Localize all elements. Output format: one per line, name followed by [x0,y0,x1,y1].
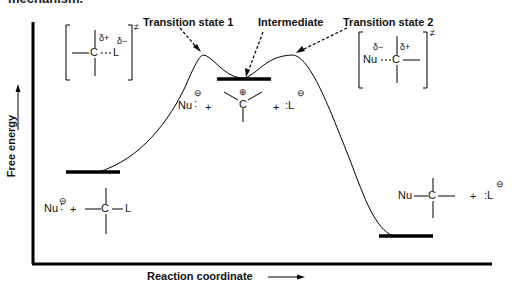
carbocation-charge: ⊕ [239,87,247,97]
reactant-leaving-group: L [125,202,131,214]
nu-lone-pair: : [194,97,197,109]
ts1-leaving-group: L [113,46,119,58]
ts2-carbon: C [392,53,400,65]
ts1-label: Transition state 1 [143,16,233,28]
ts2-nucleophile: Nu [363,53,377,65]
intermediate-label: Intermediate [258,16,323,28]
plus-sign: + [70,203,76,215]
ts2-pointer [302,28,347,50]
leaving-group-charge: ⊖ [297,88,305,98]
ts1-delta-minus: δ− [117,36,127,46]
carbocation-carbon: C [239,98,247,110]
energy-diagram [0,0,517,291]
ts1-carbon: C [90,46,98,58]
reactant-carbon: C [101,202,109,214]
intermediate-nucleophile: Nu [178,99,192,111]
nu-charge: ⊖ [194,88,202,98]
x-axis-label: Reaction coordinate [147,270,253,282]
ts2-dagger: ≠ [430,28,435,38]
product-carbon: C [428,189,436,201]
plus-sign: + [205,101,211,113]
ts1-dagger: ≠ [134,22,139,32]
energy-curve [98,55,393,236]
product-nucleophile: Nu [398,189,412,201]
intermediate-pointer [248,32,263,72]
reactant-nucleophile: Nu [44,202,58,214]
ts2-delta-minus: δ− [373,42,383,52]
ts1-pointer [180,28,197,48]
plus-sign: + [470,190,476,202]
reactant-nu-charge: ⊖ [59,196,67,206]
product-l-charge: ⊖ [496,179,504,189]
plus-sign: + [273,101,279,113]
ts2-label: Transition state 2 [343,16,433,28]
ts1-delta-plus: δ+ [99,33,109,43]
product-leaving-group: :L [484,189,493,201]
ts2-delta-plus: δ+ [400,42,410,52]
y-axis-label: Free energy [5,115,17,177]
leaving-group: :L [285,99,294,111]
